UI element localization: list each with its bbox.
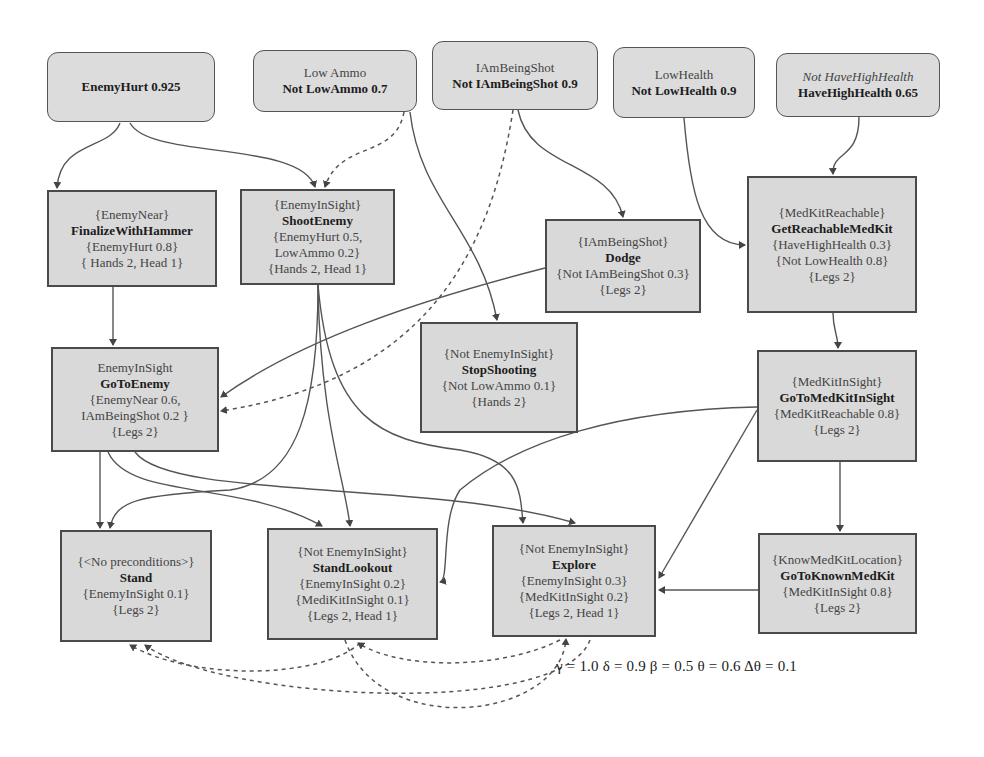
action-resources: {Legs 2} xyxy=(808,269,856,285)
action-resources: { Hands 2, Head 1} xyxy=(81,255,183,271)
action-stop-shooting: {Not EnemyInSight} StopShooting {Not Low… xyxy=(420,322,578,433)
action-name: FinalizeWithHammer xyxy=(71,223,193,239)
action-effect: {Not IAmBeingShot 0.3} xyxy=(556,266,689,282)
edge-highhealth-getmedkit xyxy=(833,117,859,174)
edge-gotoenemy-standlookout xyxy=(108,452,322,526)
action-get-reachable-medkit: {MedKitReachable} GetReachableMedKit {Ha… xyxy=(747,176,917,313)
edge-lowammo-shoot-dashed xyxy=(325,112,404,187)
action-effect: {EnemyInSight 0.1} xyxy=(82,586,189,602)
action-precondition: {KnowMedKitLocation} xyxy=(772,552,903,568)
action-shoot-enemy: {EnemyInSight} ShootEnemy {EnemyHurt 0.5… xyxy=(240,189,395,285)
action-effect: IAmBeingShot 0.2 } xyxy=(81,408,189,424)
action-precondition: EnemyInSight xyxy=(97,360,172,376)
goal-condition: Not HaveHighHealth xyxy=(803,69,914,85)
action-resources: {Hands 2, Head 1} xyxy=(268,261,367,277)
goal-enemy-hurt: EnemyHurt 0.925 xyxy=(47,52,215,122)
action-effect: {EnemyInSight 0.3} xyxy=(520,573,627,589)
action-name: Dodge xyxy=(605,250,640,266)
edge-lookout-stand-dashed xyxy=(130,643,360,671)
action-precondition: {IAmBeingShot} xyxy=(577,234,668,250)
edge-lookout-explore-dashed xyxy=(345,639,566,708)
action-go-to-known-medkit: {KnowMedKitLocation} GoToKnownMedKit {Me… xyxy=(758,533,917,634)
action-precondition: {Not EnemyInSight} xyxy=(297,544,407,560)
action-effect: {MedKitInSight 0.8} xyxy=(782,584,893,600)
edge-beingshot-dodge xyxy=(518,110,623,217)
edge-explore-stand-dashed xyxy=(145,640,590,693)
action-effect: {HaveHighHealth 0.3} xyxy=(772,237,892,253)
goal-label: Not LowHealth 0.9 xyxy=(631,83,736,99)
edge-medkitinsight-explore xyxy=(659,410,757,578)
action-resources: {Legs 2} xyxy=(814,600,862,616)
action-resources: {Hands 2} xyxy=(471,394,526,410)
action-precondition: {<No preconditions>} xyxy=(77,554,194,570)
action-go-to-medkit-in-sight: {MedKitInSight} GoToMedKitInSight {MedKi… xyxy=(757,350,917,462)
action-effect: {MedKitInSight 0.2} xyxy=(519,589,630,605)
action-effect: LowAmmo 0.2} xyxy=(275,245,361,261)
edge-enemyhurt-shoot xyxy=(130,123,315,187)
action-dodge: {IAmBeingShot} Dodge {Not IAmBeingShot 0… xyxy=(545,219,701,313)
action-finalize-with-hammer: {EnemyNear} FinalizeWithHammer {EnemyHur… xyxy=(47,190,217,287)
goal-have-high-health: Not HaveHighHealth HaveHighHealth 0.65 xyxy=(776,53,940,117)
action-precondition: {Not EnemyInSight} xyxy=(519,541,629,557)
action-name: GetReachableMedKit xyxy=(771,221,892,237)
goal-condition: LowHealth xyxy=(655,67,713,83)
action-resources: {Legs 2} xyxy=(111,424,159,440)
action-effect: {MedKitReachable 0.8} xyxy=(774,406,901,422)
goal-label: Not LowAmmo 0.7 xyxy=(282,81,387,97)
edge-enemyhurt-finalize xyxy=(57,123,120,188)
goal-i-am-being-shot: IAmBeingShot Not IAmBeingShot 0.9 xyxy=(432,41,598,110)
goal-condition: Low Ammo xyxy=(304,65,366,81)
action-resources: {Legs 2} xyxy=(813,422,861,438)
action-precondition: {MedKitInSight} xyxy=(791,374,882,390)
action-name: Stand xyxy=(120,570,153,586)
edge-gotoenemy-explore xyxy=(135,452,575,523)
action-effect: {EnemyNear 0.6, xyxy=(89,392,180,408)
action-name: StandLookout xyxy=(313,560,392,576)
edge-explore-lookout-dashed xyxy=(358,640,560,663)
action-precondition: {EnemyInSight} xyxy=(274,197,362,213)
action-resources: {Legs 2, Head 1} xyxy=(528,605,619,621)
action-effect: {Not LowHealth 0.8} xyxy=(775,253,888,269)
action-effect: {Not LowAmmo 0.1} xyxy=(442,378,557,394)
goal-label: EnemyHurt 0.925 xyxy=(82,79,181,95)
edge-getmedkit-medkitinsight xyxy=(833,313,838,348)
action-name: GoToEnemy xyxy=(100,376,170,392)
action-name: GoToKnownMedKit xyxy=(780,568,894,584)
action-effect: {EnemyInSight 0.2} xyxy=(299,576,406,592)
action-name: ShootEnemy xyxy=(282,213,353,229)
parameters-formula: γ = 1.0 δ = 0.9 β = 0.5 θ = 0.6 Δθ = 0.1 xyxy=(556,658,797,675)
action-effect: {MediKitInSight 0.1} xyxy=(295,592,409,608)
action-effect: {EnemyHurt 0.5, xyxy=(273,229,363,245)
action-explore: {Not EnemyInSight} Explore {EnemyInSight… xyxy=(492,525,656,637)
action-resources: {Legs 2} xyxy=(112,602,160,618)
goal-label: Not IAmBeingShot 0.9 xyxy=(452,76,577,92)
action-precondition: {Not EnemyInSight} xyxy=(444,346,554,362)
edge-lowammo-stopshooting xyxy=(410,112,497,320)
action-stand-lookout: {Not EnemyInSight} StandLookout {EnemyIn… xyxy=(267,528,438,640)
action-name: Explore xyxy=(552,557,596,573)
goal-label: HaveHighHealth 0.65 xyxy=(798,85,918,101)
goal-low-health: LowHealth Not LowHealth 0.9 xyxy=(613,47,755,118)
goal-low-ammo: Low Ammo Not LowAmmo 0.7 xyxy=(253,50,417,112)
action-name: StopShooting xyxy=(462,362,536,378)
goal-condition: IAmBeingShot xyxy=(476,60,555,76)
action-effect: {EnemyHurt 0.8} xyxy=(86,239,179,255)
action-resources: {Legs 2} xyxy=(599,282,647,298)
action-resources: {Legs 2, Head 1} xyxy=(307,608,398,624)
action-go-to-enemy: EnemyInSight GoToEnemy {EnemyNear 0.6, I… xyxy=(51,347,219,452)
action-precondition: {EnemyNear} xyxy=(95,207,170,223)
action-name: GoToMedKitInSight xyxy=(779,390,894,406)
action-stand: {<No preconditions>} Stand {EnemyInSight… xyxy=(60,530,212,642)
action-precondition: {MedKitReachable} xyxy=(778,205,885,221)
